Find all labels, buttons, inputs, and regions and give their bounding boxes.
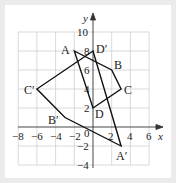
label-c-prime: C′ (24, 83, 35, 97)
label-a: A (61, 43, 70, 57)
tick-y-10: 10 (77, 26, 89, 38)
y-axis-arrow-icon (91, 13, 96, 20)
label-b-prime: B′ (48, 113, 59, 127)
label-d: D (95, 107, 104, 121)
label-c: C (124, 83, 132, 97)
x-axis-label: x (157, 130, 163, 142)
label-b: B (114, 58, 122, 72)
coordinate-grid-diagram: −8 −6 −4 −2 0 2 4 6 10 8 6 4 2 −2 −4 x y… (0, 0, 176, 183)
tick-y-2: 2 (84, 102, 90, 114)
tick-x-4: 4 (127, 130, 133, 142)
tick-x-m4: −4 (50, 130, 62, 142)
tick-x-m8: −8 (12, 130, 24, 142)
tick-y-6: 6 (84, 64, 90, 76)
y-axis-label: y (82, 12, 88, 24)
x-axis-arrow-icon (156, 125, 163, 130)
tick-y-m2: −2 (77, 140, 89, 152)
label-d-prime: D′ (96, 42, 108, 56)
label-a-prime: A′ (116, 149, 128, 163)
tick-x-m6: −6 (31, 130, 43, 142)
axes (18, 13, 163, 168)
tick-y-m4: −4 (77, 159, 89, 171)
tick-x-6: 6 (146, 130, 152, 142)
